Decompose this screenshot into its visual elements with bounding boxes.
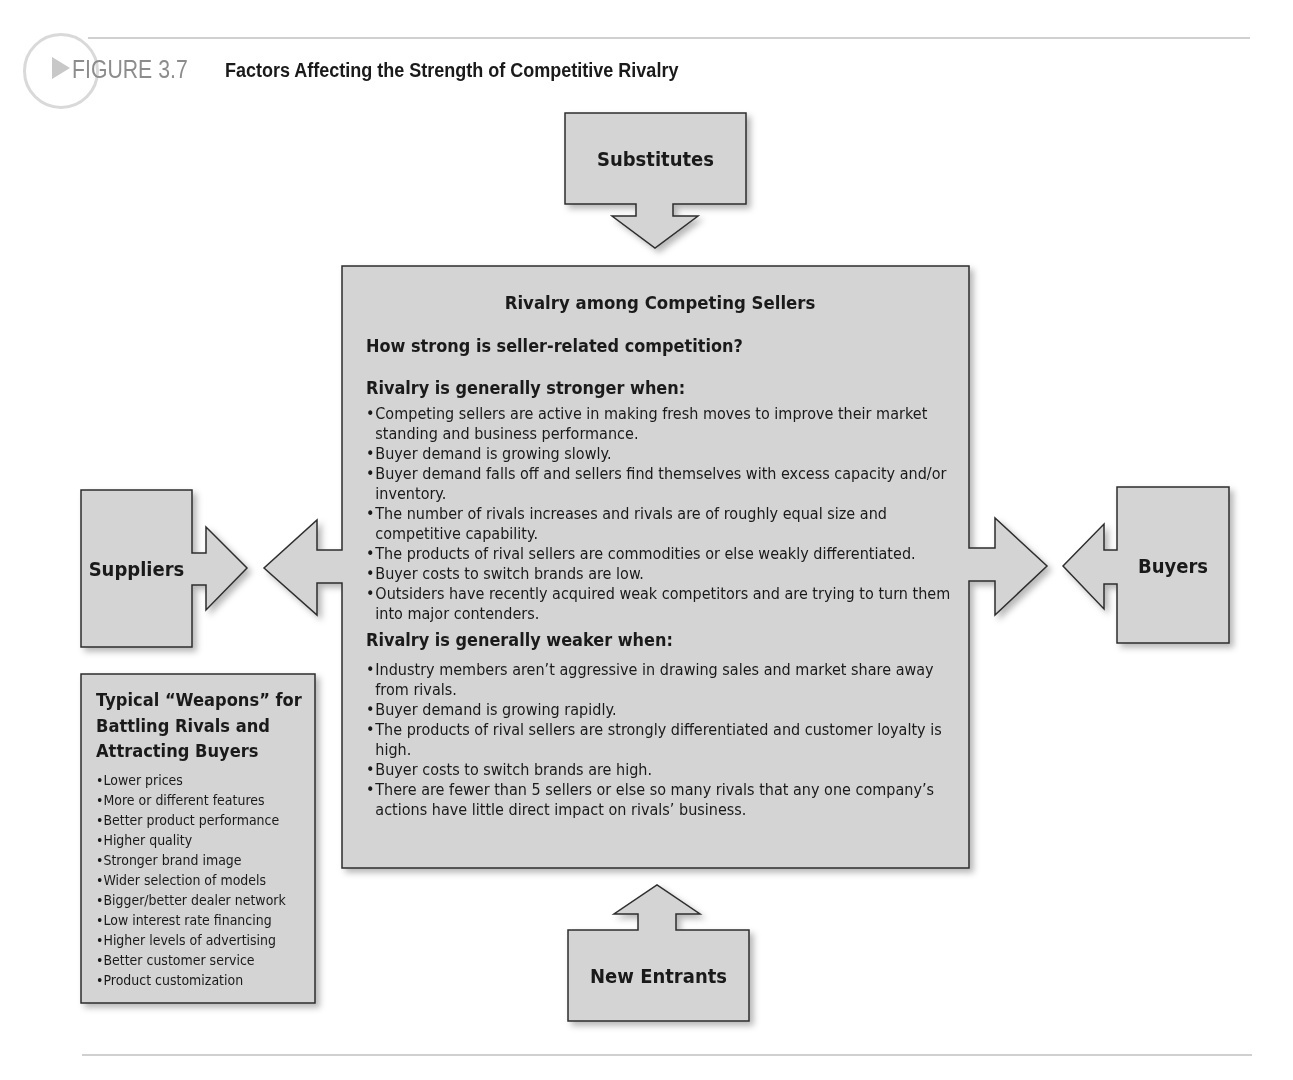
list-item: Better customer service: [96, 950, 296, 970]
list-item: Higher levels of advertising: [96, 930, 296, 950]
list-item: Buyer demand is growing slowly.: [366, 444, 971, 464]
stronger-list: Competing sellers are active in making f…: [366, 404, 966, 624]
weaker-heading: Rivalry is generally weaker when:: [366, 630, 918, 650]
list-item: Bigger/better dealer network: [96, 890, 296, 910]
list-item: More or different features: [96, 790, 296, 810]
list-item: The products of rival sellers are strong…: [366, 720, 971, 760]
list-item: Buyer demand is growing rapidly.: [366, 700, 971, 720]
list-item: Better product performance: [96, 810, 296, 830]
weapons-title: Typical “Weapons” for Battling Rivals an…: [96, 687, 307, 764]
new-entrants-label: New Entrants: [577, 964, 740, 988]
list-item: Buyer costs to switch brands are low.: [366, 564, 971, 584]
rivalry-question: How strong is seller-related competition…: [366, 336, 918, 356]
weapons-content: Typical “Weapons” for Battling Rivals an…: [96, 687, 311, 990]
list-item: Competing sellers are active in making f…: [366, 404, 971, 444]
new-entrants-box: [568, 885, 749, 1021]
stronger-heading: Rivalry is generally stronger when:: [366, 378, 918, 398]
list-item: Product customization: [96, 970, 296, 990]
rivalry-content: Rivalry among Competing Sellers How stro…: [366, 292, 966, 820]
weapons-list: Lower prices More or different features …: [96, 770, 311, 990]
list-item: Outsiders have recently acquired weak co…: [366, 584, 971, 624]
substitutes-box: [565, 113, 746, 248]
buyers-label: Buyers: [1123, 554, 1224, 578]
list-item: Low interest rate financing: [96, 910, 296, 930]
suppliers-label: Suppliers: [87, 557, 187, 581]
list-item: The products of rival sellers are commod…: [366, 544, 1026, 564]
list-item: Wider selection of models: [96, 870, 296, 890]
list-item: The number of rivals increases and rival…: [366, 504, 971, 544]
list-item: Buyer costs to switch brands are high.: [366, 760, 971, 780]
list-item: Buyer demand falls off and sellers find …: [366, 464, 971, 504]
list-item: There are fewer than 5 sellers or else s…: [366, 780, 971, 820]
list-item: Industry members aren’t aggressive in dr…: [366, 660, 971, 700]
rivalry-title: Rivalry among Competing Sellers: [378, 292, 941, 313]
list-item: Lower prices: [96, 770, 296, 790]
list-item: Higher quality: [96, 830, 296, 850]
substitutes-label: Substitutes: [574, 147, 737, 171]
list-item: Stronger brand image: [96, 850, 296, 870]
weaker-list: Industry members aren’t aggressive in dr…: [366, 660, 966, 820]
